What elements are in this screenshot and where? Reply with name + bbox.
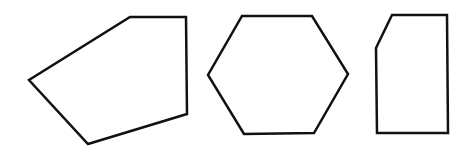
clipped-rectangle-shape (376, 15, 448, 133)
shapes-canvas (0, 0, 468, 151)
